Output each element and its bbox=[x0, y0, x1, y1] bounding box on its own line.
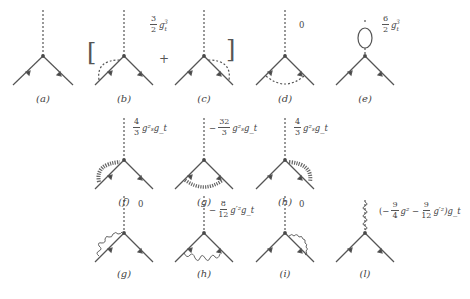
diagram-label-a: (a) bbox=[36, 93, 50, 104]
diagram-label-d: (d) bbox=[278, 93, 292, 104]
diagram-label-i: (i) bbox=[279, 268, 290, 279]
coefficient-i: 0 bbox=[299, 199, 304, 209]
diagram-b bbox=[95, 10, 153, 85]
diagram-label-g-photon: (g) bbox=[117, 268, 131, 279]
coefficient-f: 43 g²ₛg_t bbox=[131, 118, 167, 137]
diagram-a bbox=[13, 10, 73, 85]
coefficient-h: 43 g²ₛg_t bbox=[292, 118, 328, 137]
diagram-label-h: (h) bbox=[278, 196, 292, 207]
coefficient-g-photon: 0 bbox=[138, 199, 143, 209]
diagram-label-h-photon: (h) bbox=[197, 268, 211, 279]
coefficient-e: 6 2 gt3 bbox=[382, 15, 400, 34]
diagram-label-f: (f) bbox=[118, 196, 130, 207]
coefficient-h-photon: − 812 g′²g_t bbox=[209, 200, 254, 219]
plus-sign: + bbox=[159, 52, 169, 66]
fraction: 3 2 bbox=[150, 15, 157, 34]
diagram-c bbox=[175, 10, 233, 85]
close-bracket: ] bbox=[226, 35, 235, 63]
diagram-label-e: (e) bbox=[358, 93, 372, 104]
coefficient-g: − 323 g²ₛg_t bbox=[209, 118, 257, 137]
diagram-label-b: (b) bbox=[117, 93, 131, 104]
diagram-d bbox=[256, 10, 314, 85]
diagram-label-l: (l) bbox=[359, 268, 370, 279]
coefficient-d: 0 bbox=[299, 20, 304, 30]
coefficient-bc: 3 2 gt3 bbox=[150, 15, 168, 34]
open-bracket: [ bbox=[87, 38, 96, 66]
diagram-label-c: (c) bbox=[197, 93, 210, 104]
coefficient-l: (− 94 g² − 912 g′²)g_t bbox=[379, 201, 461, 220]
